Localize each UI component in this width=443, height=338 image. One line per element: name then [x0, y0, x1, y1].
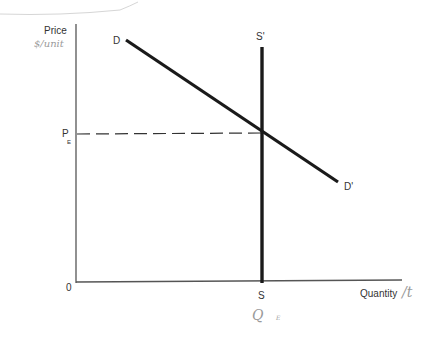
- x-axis-label: Quantity: [360, 288, 397, 299]
- demand-curve: [126, 40, 338, 182]
- scan-artifact: [0, 2, 138, 15]
- y-axis-label: Price: [44, 25, 67, 36]
- x-axis: [76, 280, 402, 282]
- demand-label-bottom: D': [344, 181, 353, 192]
- demand-label-top: D: [113, 35, 120, 46]
- equilibrium-quantity-label: Q: [252, 307, 264, 323]
- origin-label: 0: [66, 282, 72, 293]
- supply-label-top: S': [256, 31, 265, 42]
- supply-label-bottom: S: [258, 290, 265, 301]
- equilibrium-price-subscript: E: [67, 139, 71, 145]
- equilibrium-price-guide: [77, 133, 262, 134]
- equilibrium-price-label: P: [62, 128, 69, 139]
- y-unit-annotation: $/unit: [34, 38, 65, 49]
- equilibrium-quantity-subscript: E: [275, 314, 281, 321]
- supply-demand-chart: Price $/unit D D' S' S P E 0 Quantity /t…: [0, 0, 443, 338]
- x-unit-annotation: /t: [400, 284, 413, 300]
